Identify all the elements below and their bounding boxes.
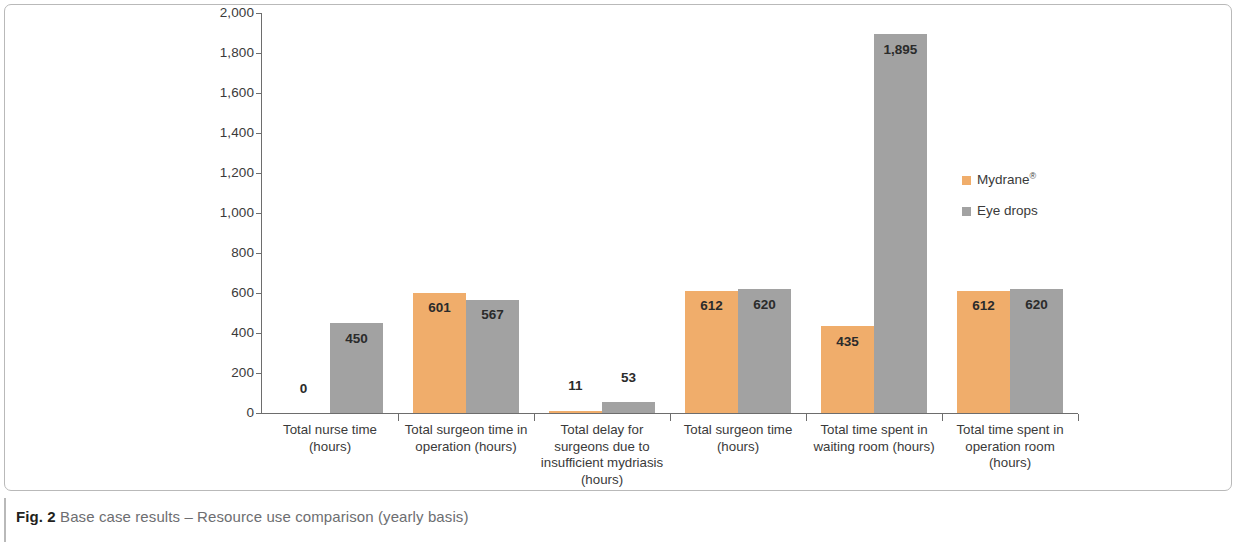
y-axis-tick-label: 1,600 <box>184 86 254 100</box>
plot-area: 045060156711536126204351,895612620 <box>262 13 1078 413</box>
legend-swatch-icon-eye-drops <box>962 207 971 216</box>
y-axis-tick-mark <box>256 93 262 94</box>
y-axis-tick-mark <box>256 13 262 14</box>
legend-item-eye-drops[interactable]: Eye drops <box>962 203 1092 220</box>
y-axis-tick-label: 0 <box>184 406 254 420</box>
x-axis-tick-mark <box>670 414 671 421</box>
x-axis-category-label: Total nurse time(hours) <box>262 422 398 455</box>
figure-caption-label: Fig. 2 <box>16 508 56 525</box>
bar-value-label: 53 <box>597 371 661 385</box>
y-axis-tick-mark <box>256 173 262 174</box>
figure-caption: Fig. 2 Base case results – Resource use … <box>16 508 469 525</box>
y-axis-tick-mark <box>256 373 262 374</box>
bar-group: 601567 <box>398 13 534 413</box>
y-axis-tick-mark <box>256 253 262 254</box>
caption-rule <box>4 498 6 542</box>
x-axis-tick-mark <box>1078 414 1079 421</box>
legend-label-mydrane: Mydrane® <box>977 172 1036 188</box>
y-axis-tick-label: 1,400 <box>184 126 254 140</box>
y-axis-tick-mark <box>256 293 262 294</box>
x-axis-category-label: Total time spent inoperation room(hours) <box>942 422 1078 472</box>
y-axis-tick-label: 1,200 <box>184 166 254 180</box>
bar-group: 612620 <box>670 13 806 413</box>
y-axis-tick-label: 2,000 <box>184 6 254 20</box>
bar-group: 4351,895 <box>806 13 942 413</box>
y-axis-tick-mark <box>256 333 262 334</box>
bar-value-label: 0 <box>272 382 336 396</box>
legend-item-mydrane[interactable]: Mydrane® <box>962 172 1092 189</box>
x-axis-tick-mark <box>534 414 535 421</box>
x-axis-tick-mark <box>942 414 943 421</box>
y-axis-tick-label: 1,000 <box>184 206 254 220</box>
y-axis-tick-label: 400 <box>184 326 254 340</box>
bar-value-label: 435 <box>816 335 880 349</box>
y-axis-tick-mark <box>256 53 262 54</box>
y-axis-tick-label: 200 <box>184 366 254 380</box>
bar-value-label: 450 <box>325 332 389 346</box>
bar-group: 1153 <box>534 13 670 413</box>
bar-value-label: 1,895 <box>869 43 933 57</box>
bar-value-label: 620 <box>1005 298 1069 312</box>
x-axis-category-label: Total surgeon time(hours) <box>670 422 806 455</box>
figure-caption-text: Base case results – Resource use compari… <box>56 508 469 525</box>
x-axis-category-label: Total surgeon time inoperation (hours) <box>398 422 534 455</box>
legend-swatch-icon-mydrane <box>962 176 971 185</box>
bar-mydrane <box>549 411 602 413</box>
bar-value-label: 567 <box>461 308 525 322</box>
bar-chart: 02004006008001,0001,2001,4001,6001,8002,… <box>0 0 1241 500</box>
y-axis-tick-label: 1,800 <box>184 46 254 60</box>
x-axis-tick-mark <box>398 414 399 421</box>
bar-value-label: 620 <box>733 298 797 312</box>
y-axis-tick-labels: 02004006008001,0001,2001,4001,6001,8002,… <box>182 0 254 500</box>
chart-legend: Mydrane® Eye drops <box>962 172 1092 234</box>
x-axis-category-label: Total time spent inwaiting room (hours) <box>806 422 942 455</box>
bar-eye-drops <box>874 34 927 413</box>
x-axis-category-label: Total delay forsurgeons due toinsufficie… <box>534 422 670 488</box>
y-axis-tick-mark <box>256 133 262 134</box>
y-axis-tick-mark <box>256 213 262 214</box>
bar-group: 0450 <box>262 13 398 413</box>
y-axis-tick-mark <box>256 413 262 414</box>
x-axis-tick-mark <box>806 414 807 421</box>
y-axis-tick-label: 600 <box>184 286 254 300</box>
legend-label-eye-drops: Eye drops <box>977 203 1038 219</box>
y-axis-tick-label: 800 <box>184 246 254 260</box>
x-axis-category-labels: Total nurse time(hours)Total surgeon tim… <box>262 422 1078 502</box>
bar-eye-drops <box>602 402 655 413</box>
